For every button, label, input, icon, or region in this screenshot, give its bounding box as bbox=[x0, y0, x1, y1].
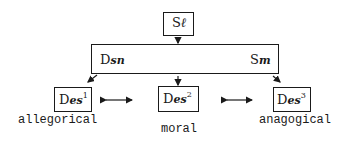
top-node-label: Sℓ bbox=[172, 15, 186, 31]
middle-node-right-label: Sm bbox=[250, 52, 271, 67]
des1-superscript: 1 bbox=[83, 91, 88, 100]
dsn-prefix: D bbox=[100, 52, 110, 67]
des3-label: Des3 bbox=[277, 92, 306, 107]
top-node-prefix: S bbox=[172, 15, 181, 30]
sm-subscript: m bbox=[259, 54, 271, 67]
des2-prefix: D bbox=[163, 91, 173, 106]
middle-node-left-label: Dsn bbox=[100, 52, 125, 67]
des3-subscript: es bbox=[287, 94, 300, 107]
middle-node-box: Dsn Sm bbox=[91, 44, 279, 74]
des2-label: Des2 bbox=[163, 91, 192, 106]
des1-subscript: es bbox=[69, 94, 82, 107]
des1-prefix: D bbox=[59, 92, 69, 107]
allegorical-caption: allegorical bbox=[18, 113, 97, 127]
anagogical-caption: anagogical bbox=[259, 113, 331, 127]
top-node-box: Sℓ bbox=[163, 12, 194, 36]
des2-subscript: es bbox=[173, 93, 186, 106]
des3-superscript: 3 bbox=[301, 91, 306, 100]
des3-prefix: D bbox=[277, 92, 287, 107]
bottom-node-anagogical-box: Des3 bbox=[273, 87, 311, 112]
moral-caption: moral bbox=[161, 122, 197, 136]
sm-prefix: S bbox=[250, 52, 259, 67]
des2-superscript: 2 bbox=[187, 90, 192, 99]
des1-label: Des1 bbox=[59, 92, 88, 107]
bottom-node-moral-box: Des2 bbox=[158, 86, 199, 112]
bottom-node-allegorical-box: Des1 bbox=[54, 87, 92, 112]
dsn-subscript: sn bbox=[110, 54, 124, 67]
top-node-subscript: ℓ bbox=[181, 15, 187, 30]
